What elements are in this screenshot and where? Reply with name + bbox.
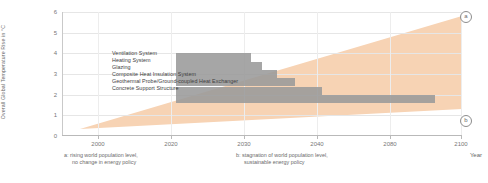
measure-label-list: Ventilation System Heating System Glazin…	[112, 50, 327, 92]
measure-label-ventilation-system: Ventilation System	[112, 50, 327, 57]
x-tickmark-2000	[98, 136, 99, 139]
scenario-b-note: b: stagnation of world population level,…	[236, 152, 328, 167]
y-tick-2: 2	[54, 92, 57, 98]
x-tickmark-2080	[390, 136, 391, 139]
y-tick-5: 5	[54, 30, 57, 36]
scenario-marker-b: b	[460, 115, 472, 127]
measure-label-glazing: Glazing	[112, 64, 327, 71]
step-bar-concrete-support	[176, 95, 435, 103]
y-tick-1: 1	[54, 112, 57, 118]
measure-label-composite-heat-insulation: Composite Heat Insulation System	[112, 71, 327, 78]
scenario-marker-a: a	[460, 11, 472, 23]
scenario-a-note-line2: no change in energy policy	[64, 159, 138, 166]
x-tick-2100: 2100	[454, 141, 467, 147]
x-tickmark-2020	[171, 136, 172, 139]
x-tick-2030: 2030	[237, 141, 250, 147]
x-tickmark-2100	[461, 136, 462, 139]
scenario-b-note-line2: sustainable energy policy	[236, 159, 328, 166]
x-tickmark-2040	[317, 136, 318, 139]
scenario-a-note-line1: a: rising world population level,	[64, 152, 138, 159]
y-tick-3: 3	[54, 71, 57, 77]
x-axis-title: Year	[470, 152, 482, 158]
scenario-a-note: a: rising world population level, no cha…	[64, 152, 138, 167]
y-tick-0: 0	[54, 133, 57, 139]
x-tickmark-2030	[244, 136, 245, 139]
x-tick-2020: 2020	[164, 141, 177, 147]
y-axis-title: Overall Global Temperature Rise in °C	[0, 6, 12, 138]
x-tick-2000: 2000	[91, 141, 104, 147]
y-tick-6: 6	[54, 9, 57, 15]
x-tick-2080: 2080	[383, 141, 396, 147]
x-tick-2040: 2040	[310, 141, 323, 147]
measure-label-concrete-support: Concrete Support Structure	[112, 85, 327, 92]
y-tick-4: 4	[54, 50, 57, 56]
measure-label-heating-system: Heating System	[112, 57, 327, 64]
scenario-b-note-line1: b: stagnation of world population level,	[236, 152, 328, 159]
measure-label-geothermal-probe: Geothermal Probe/Ground-coupled Heat Exc…	[112, 78, 327, 85]
